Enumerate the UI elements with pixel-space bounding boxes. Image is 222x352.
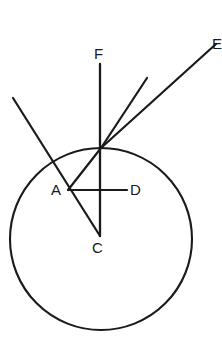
ray-tangent-to-E	[101, 44, 216, 148]
point-label-e: E	[212, 36, 222, 51]
point-label-a: A	[51, 182, 61, 197]
point-label-d: D	[130, 182, 141, 197]
point-label-f: F	[94, 46, 103, 61]
segment-tangent-to-A	[68, 148, 101, 190]
geometry-canvas	[0, 0, 222, 352]
geometry-diagram: F E A D C	[0, 0, 222, 352]
point-label-c: C	[92, 240, 103, 255]
